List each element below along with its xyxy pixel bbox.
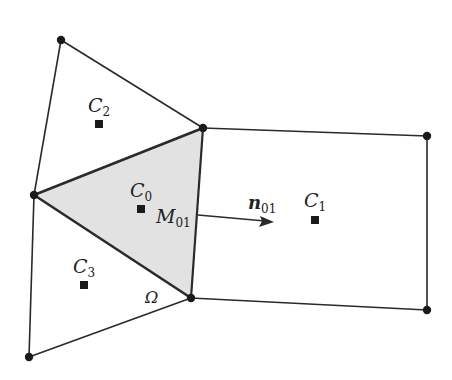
vertex-dot: [57, 36, 65, 44]
edge-top-tritop: [61, 40, 203, 128]
vertex-dot: [423, 132, 431, 140]
mesh-diagram: C2 C0 M01 n01 C1 C3 Ω: [0, 0, 452, 380]
vertex-dot: [199, 124, 207, 132]
centroid-c2-marker: [95, 120, 103, 128]
vertex-dot: [187, 294, 195, 302]
label-c3: C3: [73, 255, 95, 280]
centroid-c3-marker: [80, 281, 88, 289]
centroid-c1-marker: [311, 216, 319, 224]
vertex-dot: [25, 353, 33, 361]
label-n01: n01: [248, 192, 276, 216]
edge-tribottom-rectbottom: [191, 298, 427, 310]
vertex-dot: [423, 306, 431, 314]
edge-top-left: [34, 40, 61, 195]
diagram-canvas: C2 C0 M01 n01 C1 C3 Ω: [0, 0, 452, 380]
normal-arrow-icon: [198, 215, 274, 227]
edge-bottomleft-tribottom: [29, 298, 191, 357]
vertex-dot: [30, 191, 38, 199]
edge-tritop-recttop: [203, 128, 427, 136]
centroid-c0-marker: [137, 205, 145, 213]
label-c2: C2: [88, 94, 110, 119]
edge-left-bottomleft: [29, 195, 34, 357]
label-omega: Ω: [144, 288, 158, 307]
label-c1: C1: [304, 189, 326, 214]
